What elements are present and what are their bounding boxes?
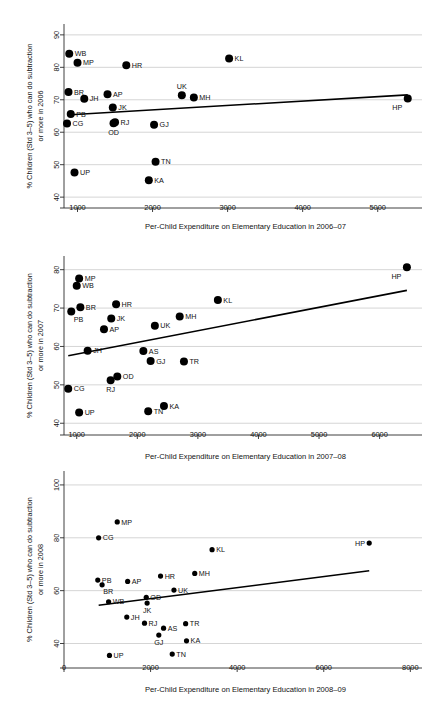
data-point: [65, 50, 73, 58]
x-tick-label: 4000: [229, 663, 245, 672]
point-label: OD: [150, 593, 161, 602]
data-point: [367, 540, 372, 545]
point-label: OD: [108, 128, 119, 137]
point-label: KA: [154, 176, 164, 185]
data-point: [144, 595, 149, 600]
point-label: JK: [118, 103, 127, 112]
data-point: [184, 638, 189, 643]
data-point: [76, 303, 84, 311]
point-label: AP: [132, 577, 142, 586]
data-point: [145, 600, 150, 605]
point-label: AP: [113, 90, 123, 99]
point-label: AS: [149, 347, 159, 356]
data-point: [84, 347, 92, 355]
point-label: PB: [74, 315, 84, 324]
point-label: WB: [113, 597, 125, 606]
point-label: UP: [80, 168, 90, 177]
y-axis-title-line2: or more in 2006: [36, 90, 45, 141]
point-label: JH: [90, 94, 99, 103]
y-tick-label: 60: [52, 128, 61, 136]
data-point: [73, 282, 81, 290]
point-label: GJ: [160, 120, 170, 129]
x-tick-label: 6000: [371, 430, 387, 439]
point-label: KL: [223, 296, 232, 305]
x-axis-title: Per-Child Expenditure on Elementary Educ…: [145, 452, 346, 461]
y-axis-title-line1: % Children (Std 3–5) who can do subtract…: [25, 497, 34, 642]
point-label: WB: [82, 281, 94, 290]
point-label: MP: [121, 518, 132, 527]
data-point: [145, 176, 153, 184]
data-point: [113, 372, 121, 380]
data-point: [124, 614, 129, 619]
point-label: AP: [109, 325, 119, 334]
point-label: WB: [75, 49, 87, 58]
point-label: HP: [392, 103, 402, 112]
y-tick-label: 40: [52, 419, 61, 427]
point-label: HP: [391, 272, 401, 281]
data-point: [115, 519, 120, 524]
point-label: RJ: [149, 619, 158, 628]
point-label: BR: [103, 587, 113, 596]
data-point: [170, 651, 175, 656]
data-point: [63, 119, 71, 127]
data-point: [96, 535, 101, 540]
y-tick-label: 80: [52, 534, 61, 542]
data-point: [214, 296, 222, 304]
point-label: CG: [103, 533, 114, 542]
point-label: TR: [189, 357, 199, 366]
data-point: [64, 385, 72, 393]
data-point: [404, 94, 412, 102]
point-label: UK: [177, 82, 187, 91]
data-point: [65, 88, 73, 96]
point-label: HR: [122, 300, 132, 309]
y-axis-title-line2: or more in 2007: [36, 320, 45, 371]
y-tick-label: 70: [52, 304, 61, 312]
data-point: [95, 577, 100, 582]
point-label: TR: [190, 619, 200, 628]
data-point: [144, 407, 152, 415]
y-tick-label: 50: [52, 381, 61, 389]
data-point: [178, 91, 186, 99]
point-label: UP: [85, 408, 95, 417]
data-point: [109, 104, 117, 112]
point-label: TN: [176, 650, 186, 659]
point-label: AS: [168, 624, 178, 633]
point-label: GJ: [154, 638, 164, 647]
point-label: UK: [160, 321, 170, 330]
point-label: MH: [185, 312, 196, 321]
data-point: [106, 599, 111, 604]
data-point: [176, 313, 184, 321]
data-point: [161, 626, 166, 631]
point-label: HR: [165, 572, 175, 581]
point-label: TN: [161, 157, 171, 166]
y-tick-label: 60: [52, 587, 61, 595]
y-tick-label: 80: [52, 63, 61, 71]
y-tick-label: 100: [52, 479, 61, 491]
point-label: GJ: [156, 357, 166, 366]
data-point: [104, 90, 112, 98]
point-label: MH: [199, 569, 210, 578]
x-tick-label: 4000: [294, 203, 310, 212]
data-point: [180, 357, 188, 365]
data-point: [183, 621, 188, 626]
data-point: [107, 314, 115, 322]
y-tick-label: 40: [52, 193, 61, 201]
x-axis-title: Per-Child Expenditure on Elementary Educ…: [145, 685, 346, 694]
data-point: [71, 168, 79, 176]
point-label: UK: [178, 586, 188, 595]
point-label: HP: [355, 539, 365, 548]
data-point: [122, 61, 130, 69]
point-label: UP: [114, 651, 124, 660]
point-label: TN: [154, 407, 164, 416]
data-point: [151, 322, 159, 330]
point-label: JH: [93, 346, 102, 355]
data-point: [156, 632, 161, 637]
point-label: OD: [123, 372, 134, 381]
regression-fit-line: [99, 571, 370, 605]
x-tick-label: 1000: [69, 203, 85, 212]
x-tick-label: 5000: [311, 430, 327, 439]
x-axis-title: Per-Child Expenditure on Elementary Educ…: [145, 222, 346, 231]
point-label: RJ: [106, 385, 115, 394]
data-point: [150, 121, 158, 129]
x-tick-label: 2000: [142, 663, 158, 672]
